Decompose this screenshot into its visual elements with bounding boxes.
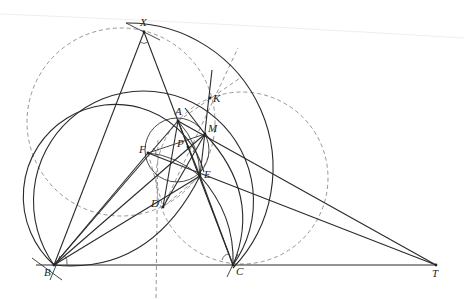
line-am-t (178, 121, 436, 265)
arc-b-a-c (33, 91, 253, 265)
dashed-circle-right (156, 92, 328, 264)
point-f (147, 152, 150, 155)
point-d (162, 206, 165, 209)
point-b (53, 264, 56, 267)
label-f: F (138, 143, 146, 155)
point-c (232, 264, 235, 267)
line-be (54, 176, 200, 265)
label-d: D (150, 197, 159, 209)
line-xb (54, 32, 144, 265)
line-bf (54, 153, 148, 265)
angle-mark-c (222, 254, 229, 260)
line-fe-t (148, 153, 436, 265)
point-labels: XAKMPFEDBCT (44, 16, 439, 279)
angle-mark-x (140, 42, 148, 44)
point-x (143, 31, 146, 34)
scan-artifact-line (0, 14, 464, 38)
label-p: P (176, 137, 184, 149)
line-xa (144, 32, 178, 121)
label-x: X (139, 16, 148, 28)
point-p (187, 146, 190, 149)
label-t: T (432, 267, 439, 279)
point-m (204, 133, 207, 136)
line-b-tangent-right (50, 256, 60, 280)
point-k (209, 97, 212, 100)
point-e (199, 175, 202, 178)
line-bm (54, 134, 205, 265)
label-e: E (203, 168, 211, 180)
point-a (177, 120, 180, 123)
arc-big-xc (126, 23, 273, 268)
label-c: C (236, 265, 244, 277)
geometry-diagram: XAKMPFEDBCT (0, 0, 464, 299)
label-m: M (207, 122, 218, 134)
label-a: A (174, 105, 182, 117)
line-ec (200, 176, 233, 265)
point-t (435, 264, 438, 267)
label-k: K (212, 92, 221, 104)
label-b: B (44, 266, 51, 278)
